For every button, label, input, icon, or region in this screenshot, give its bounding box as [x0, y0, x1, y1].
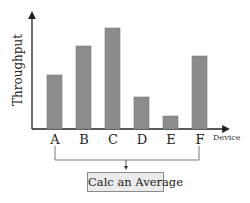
- bar-series: [47, 28, 207, 129]
- bar-f: [192, 56, 207, 129]
- x-axis-label: Device: [213, 133, 240, 142]
- bar-d: [134, 97, 149, 129]
- category-label-a: A: [50, 132, 59, 147]
- category-label-b: B: [79, 132, 89, 147]
- category-label-c: C: [108, 132, 118, 147]
- category-label-f: F: [195, 132, 204, 147]
- bar-c: [105, 28, 120, 129]
- y-axis-label: Throughput: [11, 34, 25, 106]
- category-label-e: E: [166, 132, 176, 147]
- category-label-d: D: [137, 132, 147, 147]
- bar-b: [76, 46, 91, 129]
- bar-e: [163, 116, 178, 129]
- bracket-connector: [55, 146, 199, 168]
- throughput-diagram: Throughput Device A B C D E F Calc an Av…: [0, 0, 250, 203]
- bar-a: [47, 75, 62, 129]
- calc-average-box: Calc an Average: [87, 172, 164, 192]
